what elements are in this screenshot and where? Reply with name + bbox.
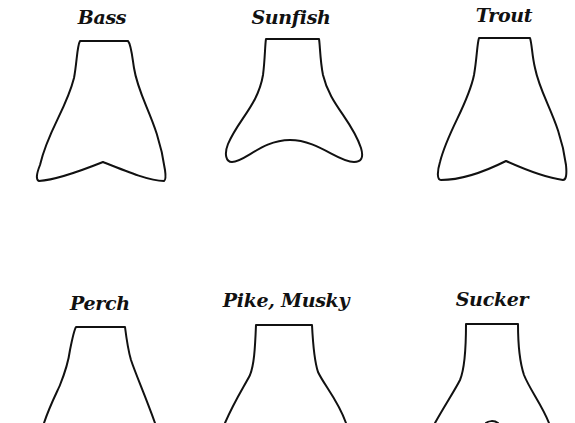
tail-shape-perch: [44, 327, 155, 423]
tail-shape-trout: [438, 38, 567, 180]
tail-shape-pike-musky: [225, 325, 346, 423]
tail-shapes: [0, 0, 575, 423]
tail-shape-sucker: [435, 324, 549, 423]
tail-shape-sunfish: [226, 39, 362, 162]
fish-tail-diagram: Bass Sunfish Trout Perch Pike, Musky Suc…: [0, 0, 575, 423]
tail-shape-bass: [37, 41, 166, 181]
